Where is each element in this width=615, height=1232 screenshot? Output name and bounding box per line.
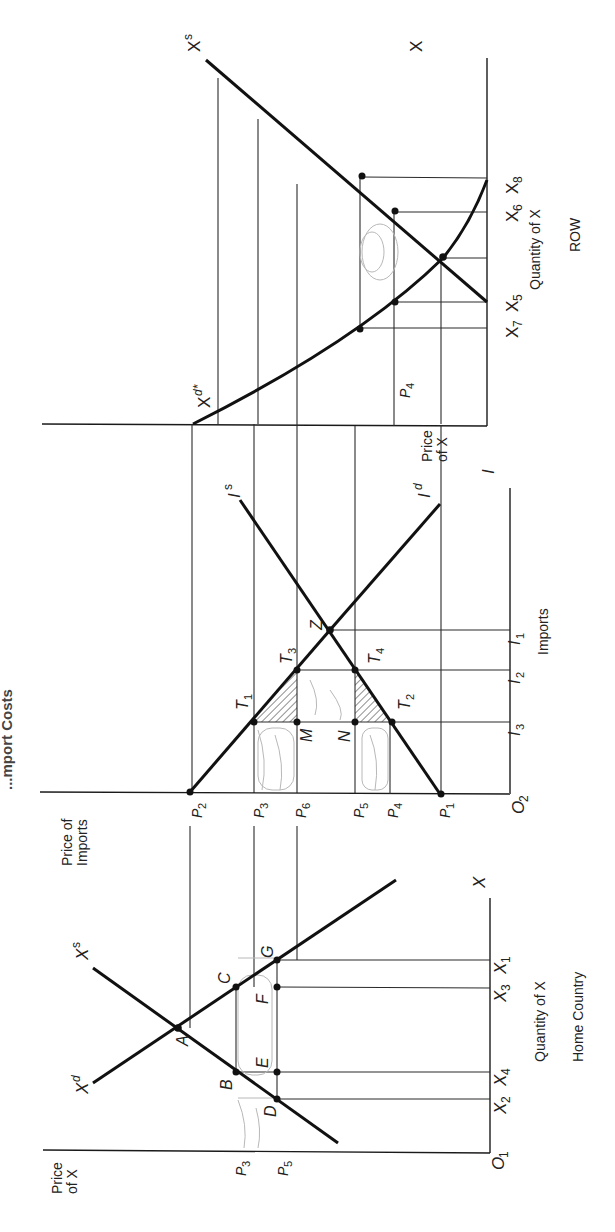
home-axis-end-label: X [470, 876, 489, 889]
home-price-tick-p5: P 5 [275, 1161, 294, 1176]
svg-text:D: D [262, 1105, 279, 1117]
import-demand-label: I d [411, 483, 434, 498]
svg-text:s: s [221, 484, 235, 490]
home-origin-label: O 1 [489, 1151, 511, 1170]
import-demand-curve-upper [330, 504, 440, 630]
svg-text:of X: of X [64, 1168, 80, 1194]
row-price-tick-p4: P 4 [397, 383, 416, 398]
point-b-label: B [218, 1079, 235, 1090]
point-z-label: Z [308, 619, 325, 631]
home-price-axis-label: Price of X [49, 1162, 80, 1194]
svg-text:2: 2 [404, 694, 416, 700]
home-supply-label: X s [69, 942, 92, 961]
svg-text:B: B [218, 1079, 235, 1090]
imports-qty-tick-i2: I 2 [506, 672, 526, 684]
svg-text:3: 3 [499, 984, 513, 991]
import-supply-label: I s [221, 484, 244, 498]
svg-text:Imports: Imports [535, 608, 551, 655]
row-panel: X s X d* X Price of X P 4 X 8 X 6 X 5 [42, 34, 583, 793]
svg-text:8: 8 [511, 176, 525, 183]
home-panel: X s X d X A B C D E F G [43, 826, 586, 1194]
row-qty-tick-x7: X 7 [503, 320, 525, 338]
home-qty-tick-x1: X 1 [491, 956, 513, 975]
import-demand-curve [190, 630, 330, 792]
row-qty-tick-x5: X 5 [503, 294, 525, 312]
svg-text:I: I [506, 679, 523, 684]
svg-text:X: X [195, 397, 214, 408]
imports-quantity-axis-label: Imports [535, 608, 551, 655]
svg-text:2: 2 [514, 672, 526, 678]
home-demand-curve [93, 880, 396, 1083]
svg-text:C: C [216, 972, 233, 984]
svg-text:s: s [69, 942, 83, 948]
import-supply-curve [240, 500, 440, 794]
home-supply-curve [93, 968, 338, 1143]
row-panel-name: ROW [567, 217, 583, 252]
svg-text:Price: Price [419, 430, 435, 462]
svg-text:d*: d* [191, 384, 205, 396]
imports-price-tick-p6: P 6 [293, 803, 312, 818]
svg-text:E: E [254, 1057, 271, 1068]
row-price-axis [42, 424, 487, 426]
imports-price-tick-p5: P 5 [351, 803, 370, 818]
svg-text:Quantity of X: Quantity of X [527, 208, 543, 290]
home-qty-tick-x3: X 3 [491, 984, 513, 1003]
svg-text:5: 5 [282, 1161, 294, 1167]
svg-text:3: 3 [514, 724, 526, 730]
svg-text:A: A [174, 1035, 191, 1047]
row-qty-tick-x8: X 8 [503, 176, 525, 194]
home-price-tick-p3: P 3 [233, 1161, 252, 1176]
svg-text:2: 2 [517, 795, 531, 802]
row-supply-label: X s [181, 34, 204, 52]
home-panel-name: Home Country [570, 972, 586, 1062]
svg-text:s: s [181, 34, 195, 40]
home-demand-label: X d [69, 1075, 92, 1095]
svg-text:...mport Costs: ...mport Costs [0, 689, 15, 790]
svg-text:1: 1 [444, 803, 456, 809]
svg-text:5: 5 [511, 294, 525, 301]
svg-text:4: 4 [404, 383, 416, 389]
svg-text:3: 3 [258, 803, 270, 809]
row-quantity-axis-label: Quantity of X [527, 208, 543, 290]
three-panel-trade-diagram: ...mport Costs [0, 0, 615, 1232]
imports-price-tick-p4: P 4 [385, 803, 404, 818]
point-c-label: C [216, 972, 233, 984]
point-m-label: M [298, 728, 315, 742]
row-qty-tick-x6: X 6 [503, 204, 525, 222]
svg-text:4: 4 [374, 648, 386, 654]
point-t2-label: T 2 [396, 694, 416, 710]
home-qty-tick-x4: X 4 [491, 1068, 513, 1087]
svg-text:2: 2 [196, 803, 208, 809]
svg-text:2: 2 [499, 1096, 513, 1103]
svg-text:I: I [506, 731, 523, 736]
svg-text:4: 4 [499, 1068, 513, 1075]
svg-text:d: d [411, 483, 425, 490]
svg-text:5: 5 [358, 803, 370, 809]
point-d-label: D [262, 1105, 279, 1117]
svg-text:3: 3 [240, 1161, 252, 1167]
svg-text:1: 1 [514, 633, 526, 639]
svg-text:G: G [259, 946, 276, 958]
point-e-label: E [254, 1057, 271, 1068]
title-fragment: ...mport Costs [0, 689, 15, 790]
point-a-label: A [174, 1035, 191, 1047]
svg-text:X: X [407, 41, 426, 52]
svg-text:Price of: Price of [59, 818, 75, 866]
row-axis-end-label: X [407, 41, 426, 52]
point-f-label: F [254, 993, 271, 1004]
svg-text:6: 6 [511, 204, 525, 211]
svg-text:Z: Z [308, 619, 325, 631]
svg-text:X: X [73, 948, 92, 961]
svg-text:of X: of X [434, 436, 450, 462]
svg-text:1: 1 [242, 694, 254, 700]
svg-text:M: M [298, 728, 315, 742]
svg-text:4: 4 [392, 803, 404, 809]
svg-text:Price: Price [49, 1162, 65, 1194]
imports-price-tick-p2: P 2 [189, 803, 208, 818]
home-price-axis [43, 1150, 490, 1153]
home-qty-tick-x2: X 2 [491, 1096, 513, 1115]
svg-text:X: X [503, 301, 522, 312]
point-g-label: G [259, 946, 276, 958]
svg-text:I: I [479, 469, 498, 474]
imports-qty-tick-i3: I 3 [506, 724, 526, 736]
